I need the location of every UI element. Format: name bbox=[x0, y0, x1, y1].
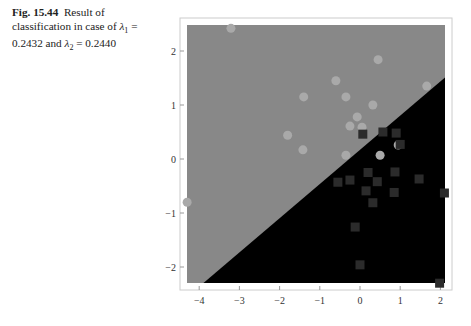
class-2-square bbox=[358, 130, 367, 139]
class-1-circle bbox=[376, 151, 385, 160]
y-tick-label: −2 bbox=[165, 262, 176, 273]
class-2-square bbox=[333, 178, 342, 187]
class-2-square bbox=[345, 176, 354, 185]
y-tick-label: −1 bbox=[165, 208, 176, 219]
class-1-circle bbox=[368, 101, 377, 110]
class-1-circle bbox=[341, 151, 350, 160]
class-1-circle bbox=[345, 122, 354, 131]
class-1-circle bbox=[283, 131, 292, 140]
x-tick-label: −3 bbox=[234, 295, 245, 306]
y-tick-label: 2 bbox=[171, 46, 176, 57]
class-1-circle bbox=[353, 112, 362, 121]
class-1-circle bbox=[331, 76, 340, 85]
x-tick-label: −1 bbox=[314, 295, 325, 306]
class-2-square bbox=[396, 140, 405, 149]
class-1-circle bbox=[374, 55, 383, 64]
class-1-circle bbox=[226, 24, 235, 33]
class-1-circle bbox=[183, 198, 192, 207]
class-1-circle bbox=[298, 145, 307, 154]
class-1-circle bbox=[422, 82, 431, 91]
class-1-circle bbox=[299, 92, 308, 101]
x-tick-label: 2 bbox=[438, 295, 443, 306]
class-2-square bbox=[368, 198, 377, 207]
class-2-square bbox=[356, 260, 365, 269]
class-2-square bbox=[435, 279, 444, 288]
class-regions bbox=[187, 25, 445, 283]
class-2-square bbox=[440, 189, 449, 198]
x-tick-label: 1 bbox=[398, 295, 403, 306]
class-2-square bbox=[390, 188, 399, 197]
class-2-square bbox=[392, 129, 401, 138]
x-tick-label: −2 bbox=[274, 295, 285, 306]
class-1-circle bbox=[341, 92, 350, 101]
class-2-square bbox=[390, 167, 399, 176]
y-tick-label: 0 bbox=[171, 154, 176, 165]
class-2-square bbox=[378, 128, 387, 137]
x-tick-label: −4 bbox=[194, 295, 205, 306]
y-tick-label: 1 bbox=[171, 100, 176, 111]
x-tick-label: 0 bbox=[358, 295, 363, 306]
class-2-square bbox=[415, 174, 424, 183]
class-2-square bbox=[373, 177, 382, 186]
classification-plot: −4−3−2−1012−2−1012 bbox=[0, 0, 471, 326]
class-2-square bbox=[364, 168, 373, 177]
class-2-square bbox=[362, 186, 371, 195]
class-2-square bbox=[351, 223, 360, 232]
